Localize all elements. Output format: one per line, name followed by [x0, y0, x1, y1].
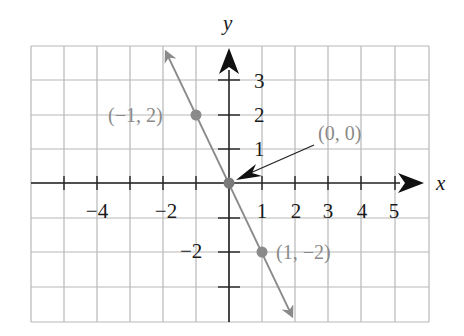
x-tick-label: 3 — [323, 199, 334, 223]
x-tick-label: −4 — [86, 199, 109, 223]
point-label: (−1, 2) — [108, 104, 163, 127]
y-tick-label: 2 — [254, 103, 265, 127]
point-1-neg2 — [257, 247, 268, 258]
x-axis-arrow-icon — [398, 173, 424, 193]
y-tick-label: 3 — [254, 69, 265, 93]
point-neg1-2 — [191, 110, 202, 121]
y-axis-label: y — [221, 11, 233, 35]
y-tick-label: 1 — [254, 137, 265, 161]
point-label: (0, 0) — [318, 122, 361, 145]
annotation-arrowhead-icon — [236, 164, 262, 180]
x-tick-label: 5 — [389, 199, 400, 223]
x-tick-label: −2 — [155, 199, 177, 223]
coordinate-plane: −4 −2 1 2 3 4 5 3 2 1 −2 x y (−1, 2) (0,… — [0, 0, 464, 336]
point-origin — [224, 178, 235, 189]
point-label: (1, −2) — [276, 241, 331, 264]
x-tick-label: 4 — [357, 199, 368, 223]
y-tick-label: −2 — [180, 239, 202, 263]
x-axis-label: x — [435, 171, 446, 195]
x-tick-label: 1 — [257, 199, 268, 223]
x-tick-label: 2 — [291, 199, 302, 223]
